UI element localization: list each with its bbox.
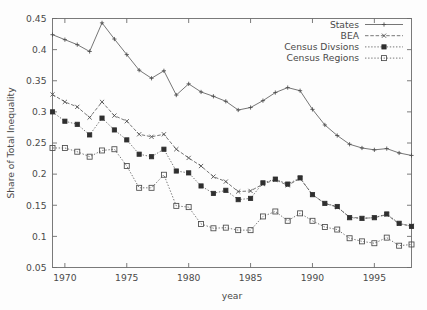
data-point-marker (125, 119, 129, 123)
x-axis-label: year (222, 290, 243, 301)
data-point-marker (162, 69, 166, 73)
data-point-marker (285, 218, 290, 223)
y-tick-label: 0.05 (26, 262, 47, 273)
y-tick-label: 0.1 (32, 231, 47, 242)
data-point-marker (261, 181, 265, 185)
x-tick-label: 1985 (239, 272, 263, 283)
data-point-marker (273, 177, 277, 181)
series-path (53, 94, 412, 225)
x-tick-label: 1970 (53, 272, 77, 283)
x-tick-label: 1975 (115, 272, 139, 283)
data-point-marker (224, 179, 228, 183)
data-point-marker (286, 85, 290, 89)
data-point-marker (88, 115, 92, 119)
data-point-marker (248, 105, 252, 109)
chart-figure: 0.050.10.150.20.250.30.350.40.45 1970197… (0, 0, 427, 310)
data-point-marker (286, 182, 290, 186)
y-axis-label: Share of Total Inequality (5, 87, 16, 199)
series-states (50, 21, 413, 158)
data-point-marker (382, 22, 386, 26)
data-point-marker (112, 128, 116, 132)
data-point-marker (137, 132, 141, 136)
series-path (53, 148, 412, 246)
legend-label-census-regions: Census Regions (287, 52, 360, 63)
data-point-marker (63, 100, 67, 104)
data-point-marker (409, 224, 413, 228)
data-point-marker (335, 204, 339, 208)
legend-label-census-divsions: Census Divsions (284, 41, 359, 52)
data-point-marker (149, 155, 153, 159)
y-tick-label: 0.3 (32, 106, 47, 117)
data-point-marker (161, 172, 166, 177)
data-point-marker (397, 221, 401, 225)
data-point-marker (88, 49, 92, 53)
x-tick-label: 1990 (301, 272, 325, 283)
data-point-marker (360, 216, 364, 220)
data-point-marker (174, 169, 178, 173)
data-point-marker (382, 45, 386, 49)
data-point-marker (385, 147, 389, 151)
data-point-marker (323, 201, 327, 205)
data-point-marker (348, 216, 352, 220)
legend-label-states: States (330, 19, 359, 30)
data-point-marker (273, 209, 278, 214)
data-point-marker (397, 151, 401, 155)
data-point-marker (75, 43, 79, 47)
data-point-marker (384, 235, 389, 240)
data-point-marker (75, 105, 79, 109)
data-point-marker (298, 176, 302, 180)
series-census-divsions (50, 110, 413, 229)
data-point-marker (211, 175, 215, 179)
data-point-marker (162, 147, 166, 151)
data-point-marker (50, 110, 54, 114)
data-point-marker (112, 114, 116, 118)
data-point-marker (125, 138, 129, 142)
data-point-marker (149, 76, 153, 80)
data-point-marker (310, 193, 314, 197)
series-census-regions (50, 145, 414, 248)
data-series-group (50, 21, 414, 248)
data-point-marker (199, 184, 203, 188)
data-point-marker (360, 146, 364, 150)
data-point-marker (385, 212, 389, 216)
data-point-marker (50, 33, 54, 37)
data-point-marker (63, 119, 67, 123)
data-point-marker (236, 198, 240, 202)
data-point-marker (248, 196, 252, 200)
data-point-marker (211, 94, 215, 98)
data-point-marker (174, 147, 178, 151)
data-point-marker (261, 99, 265, 103)
data-point-marker (100, 100, 104, 104)
chart-legend: StatesBEACensus DivsionsCensus Regions (284, 19, 403, 64)
data-point-marker (100, 148, 105, 153)
x-tick-label: 1995 (363, 272, 387, 283)
data-point-marker (211, 191, 215, 195)
y-tick-label: 0.15 (26, 200, 47, 211)
data-point-marker (87, 154, 92, 159)
y-tick-label: 0.25 (26, 137, 47, 148)
y-tick-label: 0.35 (26, 75, 47, 86)
y-tick-label: 0.2 (32, 168, 47, 179)
data-point-marker (372, 148, 376, 152)
y-tick-label: 0.4 (32, 44, 47, 55)
data-point-marker (199, 164, 203, 168)
data-point-marker (124, 164, 129, 169)
data-point-marker (372, 216, 376, 220)
series-bea (50, 92, 413, 228)
data-point-marker (100, 116, 104, 120)
legend-label-bea: BEA (341, 30, 360, 41)
chart-canvas: 0.050.10.150.20.250.30.350.40.45 1970197… (0, 0, 427, 310)
data-point-marker (137, 152, 141, 156)
data-point-marker (409, 153, 413, 157)
series-path (53, 112, 412, 227)
y-tick-label: 0.45 (26, 13, 47, 24)
data-point-marker (224, 188, 228, 192)
data-point-marker (63, 38, 67, 42)
data-point-marker (88, 133, 92, 137)
x-tick-label: 1980 (177, 272, 201, 283)
data-point-marker (187, 171, 191, 175)
data-point-marker (187, 156, 191, 160)
data-point-marker (75, 122, 79, 126)
